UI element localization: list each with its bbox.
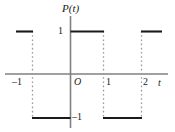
y-tick-label-minus-1: –1 [72,112,82,122]
x-tick-label-1: 1 [106,77,111,87]
x-tick-label-minus-1: –1 [12,77,22,87]
function-label: P(t) [62,3,79,14]
origin-label: O [74,77,81,87]
x-axis-label: t [158,78,161,88]
plot-canvas [0,0,175,132]
y-tick-label-1: 1 [58,26,63,36]
x-tick-label-2: 2 [143,77,148,87]
square-wave-figure: P(t) 1 –1 –1 O 1 2 t [0,0,175,132]
